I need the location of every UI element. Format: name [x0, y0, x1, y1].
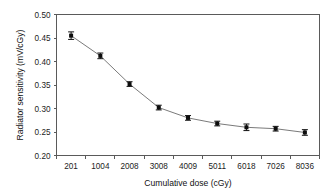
y-axis-tick-labels: 0.200.250.300.350.400.450.50 [35, 11, 51, 161]
y-axis-title: Radiator sensitivity (mV/cGy) [15, 29, 25, 140]
x-tick-label: 4009 [179, 162, 198, 171]
y-tick-label: 0.45 [35, 34, 51, 43]
y-tick-label: 0.35 [35, 81, 51, 90]
y-tick-label: 0.25 [35, 128, 51, 137]
data-point-marker [303, 130, 307, 134]
data-point-marker [215, 122, 219, 126]
data-point-markers [69, 34, 307, 135]
plot-frame [57, 14, 321, 156]
data-point-marker [186, 116, 190, 120]
x-tick-label: 8036 [296, 162, 315, 171]
x-tick-label: 201 [64, 162, 78, 171]
y-tick-label: 0.30 [35, 105, 51, 114]
line-chart: 0.200.250.300.350.400.450.50 20110042008… [0, 0, 333, 196]
y-tick-label: 0.40 [35, 58, 51, 67]
x-tick-label: 5011 [208, 162, 226, 171]
data-point-marker [244, 125, 248, 129]
x-axis-tick-labels: 20110042008300840095011601870268036 [64, 162, 314, 171]
x-axis-title: Cumulative dose (cGy) [144, 178, 232, 188]
x-tick-label: 2008 [120, 162, 139, 171]
data-point-marker [98, 54, 102, 58]
data-point-marker [274, 127, 278, 131]
data-point-marker [128, 82, 132, 86]
x-tick-label: 7026 [267, 162, 286, 171]
x-tick-label: 3008 [150, 162, 169, 171]
x-tick-label: 1004 [91, 162, 110, 171]
data-point-marker [157, 106, 161, 110]
data-point-marker [69, 34, 73, 38]
x-tick-label: 6018 [237, 162, 256, 171]
y-tick-label: 0.50 [35, 11, 51, 20]
y-tick-label: 0.20 [35, 152, 51, 161]
figure-container: 0.200.250.300.350.400.450.50 20110042008… [0, 0, 333, 196]
